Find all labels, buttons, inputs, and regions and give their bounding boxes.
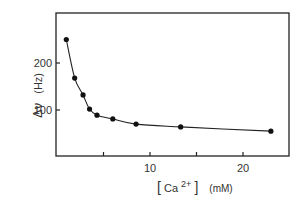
x-label-bracket-open: [ <box>157 179 161 195</box>
data-point <box>133 122 138 127</box>
x-tick-label: 10 <box>144 162 156 174</box>
data-point <box>72 75 77 80</box>
data-point <box>87 106 92 111</box>
data-point <box>268 129 273 134</box>
y-axis-label: Δν (Hz) <box>30 73 45 118</box>
x-label-species: Ca <box>164 182 179 194</box>
chart: 1020100200 Δν (Hz) [ Ca 2+ ] (mM) <box>0 0 307 205</box>
data-point <box>94 113 99 118</box>
y-label-unit: (Hz) <box>32 73 44 94</box>
axis-ticks <box>56 63 243 156</box>
x-label-unit: (mM) <box>209 183 232 194</box>
x-tick-label: 20 <box>237 162 249 174</box>
data-point <box>178 124 183 129</box>
data-points <box>64 37 274 134</box>
data-point <box>110 116 115 121</box>
data-point <box>80 92 85 97</box>
plot-frame <box>56 13 289 156</box>
x-axis-label: [ Ca 2+ ] (mM) <box>157 177 233 195</box>
data-point <box>64 37 69 42</box>
x-label-bracket-close: ] <box>194 179 198 195</box>
y-tick-label: 200 <box>34 57 52 69</box>
y-label-symbol: Δν <box>30 103 45 118</box>
x-label-charge: 2+ <box>181 179 191 189</box>
